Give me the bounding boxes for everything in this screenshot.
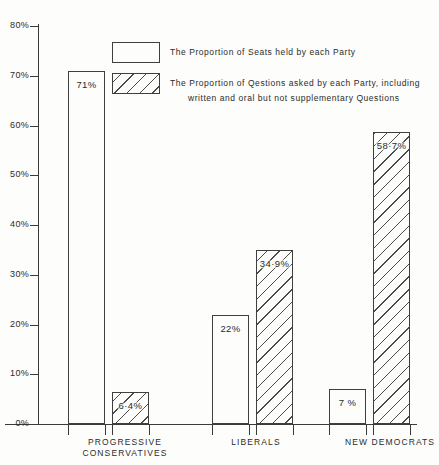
y-axis-tick-label: 60%: [0, 120, 29, 130]
bar-value-label: 58·7%: [374, 140, 409, 151]
bar: 22%: [212, 315, 249, 424]
y-axis-tick-label: 30%: [0, 269, 29, 279]
y-axis-tick: [30, 76, 39, 77]
x-axis-tick: [410, 424, 411, 435]
x-axis-tick: [373, 424, 374, 435]
x-axis-tick: [329, 424, 330, 435]
y-axis-tick-label: 70%: [0, 70, 29, 80]
x-axis-category-label: NEW DEMOCRATS: [315, 437, 439, 448]
chart-legend: The Proportion of Seats held by each Par…: [112, 42, 412, 104]
bar: 71%: [68, 71, 105, 424]
bar: 6·4%: [112, 392, 149, 424]
y-axis-tick: [30, 374, 39, 375]
legend-item-questions-label-line1: The Proportion of Qestions asked by each…: [170, 76, 420, 91]
y-axis-tick-label: 20%: [0, 319, 29, 329]
x-axis-category-label: PROGRESSIVE CONSERVATIVES: [50, 437, 200, 459]
legend-item-questions-label-line2: written and oral but not supplementary Q…: [188, 91, 400, 106]
bar-value-label: 22%: [213, 323, 248, 334]
y-axis-tick: [30, 275, 39, 276]
x-axis-tick: [249, 424, 250, 435]
x-axis-tick: [112, 424, 113, 435]
x-axis-category-label: LIBERALS: [181, 437, 331, 448]
y-axis-tick-label: 80%: [0, 20, 29, 30]
x-axis-tick: [366, 424, 367, 435]
legend-swatch-open-rectangle: [112, 42, 160, 63]
x-axis-tick: [212, 424, 213, 435]
bar-value-label: 6·4%: [113, 400, 148, 411]
x-axis-tick: [149, 424, 150, 435]
x-axis-tick: [256, 424, 257, 435]
legend-item-questions: The Proportion of Qestions asked by each…: [112, 73, 412, 95]
y-axis-tick-label: 40%: [0, 219, 29, 229]
x-axis-tick: [68, 424, 69, 435]
x-axis-tick: [105, 424, 106, 435]
y-axis-tick: [30, 126, 39, 127]
y-axis-tick: [30, 175, 39, 176]
x-axis-tick: [293, 424, 294, 435]
bar-value-label: 34·9%: [257, 258, 292, 269]
legend-item-seats-label: The Proportion of Seats held by each Par…: [170, 45, 356, 60]
bar-value-label: 7 %: [330, 397, 365, 408]
legend-swatch-hatched-rectangle: [112, 73, 160, 94]
legend-item-seats: The Proportion of Seats held by each Par…: [112, 42, 412, 64]
y-axis-tick: [30, 26, 39, 27]
y-axis-tick: [30, 424, 39, 425]
y-axis-tick-label: 0%: [0, 418, 29, 428]
bar-value-label: 71%: [69, 79, 104, 90]
bar: 34·9%: [256, 250, 293, 424]
y-axis-tick: [30, 225, 39, 226]
bar: 7 %: [329, 389, 366, 424]
y-axis-tick-label: 10%: [0, 368, 29, 378]
bar: 58·7%: [373, 132, 410, 424]
y-axis-tick: [30, 325, 39, 326]
y-axis-tick-label: 50%: [0, 169, 29, 179]
x-axis-line: [5, 424, 417, 425]
